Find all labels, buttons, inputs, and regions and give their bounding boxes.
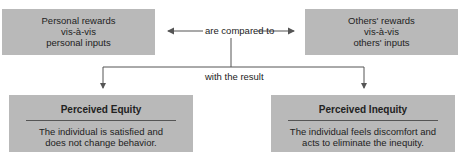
line: vis-à-vis (305, 26, 458, 37)
divider (26, 120, 176, 121)
line: The individual is satisfied and (9, 126, 193, 137)
perceived-equity-box: Perceived Equity The individual is satis… (9, 95, 193, 152)
personal-rewards-box: Personal rewards vis-à-vis personal inpu… (2, 9, 155, 55)
line: The individual feels discomfort and (271, 126, 455, 137)
perceived-inequity-box: Perceived Inequity The individual feels … (271, 95, 455, 152)
line: others' inputs (305, 37, 458, 48)
box-title: Perceived Equity (9, 104, 193, 115)
line: personal inputs (2, 37, 155, 48)
box-title: Perceived Inequity (271, 104, 455, 115)
line: does not change behavior. (9, 137, 193, 148)
compare-label: are compared to (205, 25, 274, 36)
divider (288, 120, 438, 121)
line: vis-à-vis (2, 26, 155, 37)
line: Personal rewards (2, 15, 155, 26)
result-label: with the result (205, 71, 264, 82)
line: Others' rewards (305, 15, 458, 26)
line: acts to eliminate the inequity. (271, 137, 455, 148)
others-rewards-box: Others' rewards vis-à-vis others' inputs (305, 9, 458, 55)
